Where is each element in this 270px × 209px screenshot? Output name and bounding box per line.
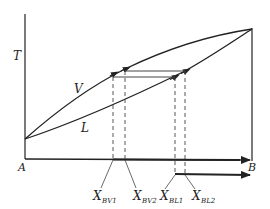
leader-xbl1 [165,175,175,189]
label-xbv1: X BV1 [92,189,117,205]
vapor-arrow-2 [121,68,129,72]
leader-xbv1 [101,160,113,188]
vapor-curve [25,29,252,139]
svg-text:X: X [92,189,102,203]
label-xbl1: X BL1 [159,189,183,205]
liquid-curve [25,29,252,139]
vapor-composition-path [113,159,240,160]
svg-text:X: X [191,189,201,203]
phase-diagram: T V L A B X BV1 X BV2 X BL1 X BL2 [0,0,270,209]
svg-text:BV1: BV1 [101,197,117,205]
svg-text:BL1: BL1 [168,197,183,205]
svg-text:X: X [132,189,142,203]
leader-xbl2 [185,175,195,189]
vapor-label: V [74,82,84,96]
y-axis-label: T [13,49,22,63]
liquid-composition-path [175,174,250,175]
label-xbl2: X BL2 [191,189,216,205]
label-xbv2: X BV2 [132,189,157,205]
component-b-label: B [247,161,256,174]
svg-text:X: X [159,189,169,203]
component-a-label: A [17,161,26,174]
svg-text:BL2: BL2 [200,197,216,205]
liquid-label: L [80,121,89,135]
leader-xbv2 [125,160,136,188]
svg-text:BV2: BV2 [141,197,157,205]
